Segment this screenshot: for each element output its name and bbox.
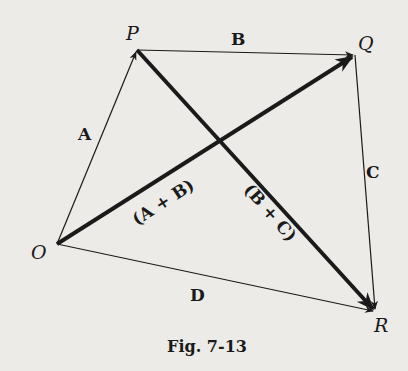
vector-label-b: B [231, 29, 245, 49]
vector-a-arrow [57, 52, 136, 244]
vector-a-plus-b-arrow [57, 57, 352, 244]
vector-label-d: D [190, 285, 205, 305]
vector-c-arrow [355, 55, 375, 309]
vector-label-a: A [77, 124, 92, 144]
vector-label-b-plus-c: (B + C) [240, 180, 301, 246]
vector-addition-figure: P Q O R A B C D (A + B) (B + C) Fig. 7-1… [0, 0, 408, 371]
point-label-p: P [125, 22, 140, 44]
vector-b-arrow [137, 50, 353, 55]
figure-caption: Fig. 7-13 [167, 337, 247, 356]
diagram-canvas: P Q O R A B C D (A + B) (B + C) Fig. 7-1… [0, 0, 408, 371]
point-label-o: O [31, 241, 47, 263]
vector-label-a-plus-b: (A + B) [128, 175, 197, 230]
point-label-r: R [373, 314, 388, 336]
point-label-q: Q [358, 32, 374, 54]
vector-label-c: C [366, 162, 380, 182]
